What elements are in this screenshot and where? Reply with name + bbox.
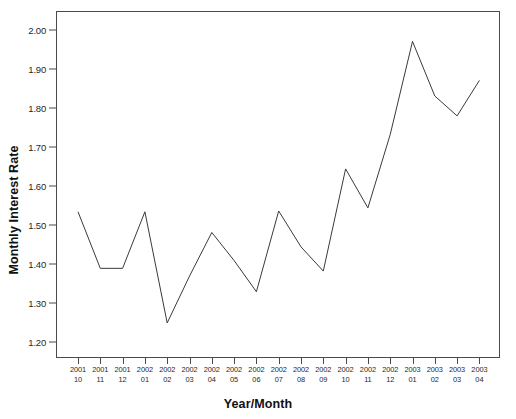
x-tick-mark [78,358,79,364]
x-tick-label: 200208 [293,365,309,384]
x-tick-label: 200201 [137,365,153,384]
y-tick-label: 1.80 [28,103,46,114]
x-tick-label-month: 03 [181,375,197,385]
x-tick-label-month: 04 [204,375,220,385]
y-tick-mark [49,30,56,31]
x-tick-label: 200207 [271,365,287,384]
x-tick-label-month: 02 [427,375,443,385]
x-tick-label: 200206 [248,365,264,384]
x-tick-label-year: 2002 [315,365,331,375]
y-tick-mark [49,186,56,187]
x-tick-mark [346,358,347,364]
x-tick-label-year: 2002 [271,365,287,375]
x-tick-label: 200303 [449,365,465,384]
x-tick-mark [301,358,302,364]
x-tick-mark [167,358,168,364]
x-tick-label-month: 11 [92,375,108,385]
x-tick-label-month: 08 [293,375,309,385]
y-tick-mark [49,108,56,109]
x-tick-mark [479,358,480,364]
x-tick-label-month: 10 [70,375,86,385]
x-tick-mark [123,358,124,364]
x-tick-label-year: 2001 [70,365,86,375]
x-tick-label-month: 01 [137,375,153,385]
x-tick-label-year: 2003 [404,365,420,375]
x-tick-mark [368,358,369,364]
x-tick-label-year: 2002 [226,365,242,375]
y-tick-label: 1.50 [28,220,46,231]
y-tick-label: 1.70 [28,142,46,153]
x-axis: 2001102001112001122002012002022002032002… [0,358,516,400]
x-tick-label: 200112 [115,365,131,384]
x-tick-label-month: 04 [471,375,487,385]
y-tick-mark [49,147,56,148]
x-tick-label-year: 2002 [248,365,264,375]
x-tick-mark [323,358,324,364]
x-tick-label: 200304 [471,365,487,384]
x-tick-mark [390,358,391,364]
x-tick-label: 200202 [159,365,175,384]
x-tick-label-year: 2002 [293,365,309,375]
chart-figure: Monthly Interest Rate 1.201.301.401.501.… [0,0,516,419]
x-tick-label-month: 12 [382,375,398,385]
x-tick-label-year: 2003 [449,365,465,375]
x-tick-label: 200204 [204,365,220,384]
interest-rate-series-line [78,41,479,323]
x-tick-label-year: 2001 [92,365,108,375]
x-axis-title: Year/Month [0,397,516,411]
x-tick-mark [190,358,191,364]
x-tick-label-year: 2003 [471,365,487,375]
y-tick-mark [49,69,56,70]
x-tick-label-year: 2001 [115,365,131,375]
x-tick-label: 200211 [360,365,376,384]
x-tick-label-year: 2002 [137,365,153,375]
x-tick-label-month: 03 [449,375,465,385]
x-tick-mark [435,358,436,364]
x-tick-mark [234,358,235,364]
top-cutoff-caption [0,0,516,8]
x-tick-label-year: 2002 [382,365,398,375]
x-tick-label: 200212 [382,365,398,384]
x-tick-label-month: 06 [248,375,264,385]
x-tick-mark [413,358,414,364]
x-tick-label: 200110 [70,365,86,384]
x-tick-label: 200210 [338,365,354,384]
y-tick-label: 1.30 [28,298,46,309]
x-tick-label-month: 02 [159,375,175,385]
x-tick-label-year: 2002 [181,365,197,375]
y-tick-label: 2.00 [28,25,46,36]
x-tick-label: 200111 [92,365,108,384]
y-axis: 1.201.301.401.501.601.701.801.902.00 [0,0,56,419]
x-tick-label-month: 05 [226,375,242,385]
y-tick-mark [49,225,56,226]
y-tick-label: 1.90 [28,64,46,75]
x-tick-label-month: 09 [315,375,331,385]
x-tick-label-year: 2002 [159,365,175,375]
x-tick-mark [457,358,458,364]
x-tick-label-month: 10 [338,375,354,385]
x-tick-mark [212,358,213,364]
x-tick-label-month: 01 [404,375,420,385]
y-tick-label: 1.20 [28,337,46,348]
x-tick-label: 200203 [181,365,197,384]
y-tick-mark [49,342,56,343]
y-tick-mark [49,264,56,265]
y-tick-label: 1.60 [28,181,46,192]
y-tick-label: 1.40 [28,259,46,270]
x-tick-label: 200209 [315,365,331,384]
x-tick-mark [256,358,257,364]
x-tick-mark [100,358,101,364]
x-tick-label-year: 2003 [427,365,443,375]
x-tick-mark [279,358,280,364]
x-tick-label-month: 12 [115,375,131,385]
x-tick-label-year: 2002 [204,365,220,375]
x-tick-label: 200205 [226,365,242,384]
y-tick-mark [49,303,56,304]
x-tick-label: 200301 [404,365,420,384]
x-tick-mark [145,358,146,364]
x-tick-label-year: 2002 [360,365,376,375]
x-tick-label-year: 2002 [338,365,354,375]
data-line-chart [56,11,500,358]
x-tick-label-month: 11 [360,375,376,385]
x-tick-label: 200302 [427,365,443,384]
